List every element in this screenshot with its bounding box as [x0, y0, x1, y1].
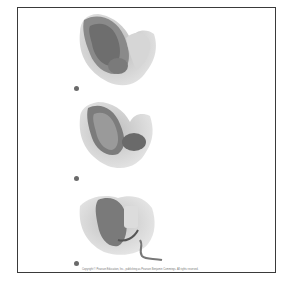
bullet-stage-2 — [74, 176, 79, 181]
copyright-caption: Copyright © Pearson Education, Inc., pub… — [82, 268, 198, 271]
bullet-stage-1 — [74, 86, 79, 91]
fetus-illustration-stage-1 — [74, 10, 164, 88]
fetus-illustration-stage-3 — [78, 190, 170, 262]
bullet-stage-3 — [74, 261, 79, 266]
fetus-illustration-stage-2 — [76, 98, 162, 172]
